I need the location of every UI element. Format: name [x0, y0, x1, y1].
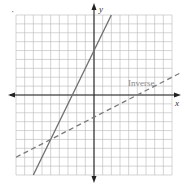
inverse-function-graph: · y x Inverse [0, 0, 185, 191]
axes [8, 3, 181, 183]
y-axis-down-arrow-icon [92, 176, 97, 183]
x-axis-label: x [174, 98, 179, 108]
corner-mark: · [11, 6, 14, 17]
inverse-label: Inverse [128, 78, 155, 88]
y-axis-label: y [98, 4, 103, 14]
x-axis-right-arrow-icon [174, 93, 181, 98]
y-axis-up-arrow-icon [92, 3, 97, 10]
inverse-line [16, 73, 181, 157]
x-axis-left-arrow-icon [8, 93, 15, 98]
